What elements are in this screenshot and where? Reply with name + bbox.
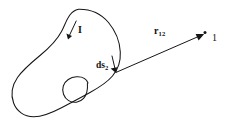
r12-label-subscript: 12 [158, 30, 165, 37]
ds2-label: ds2 [96, 61, 108, 71]
diagram-svg [0, 0, 226, 129]
current-direction-arrow-icon [66, 34, 72, 40]
ds2-element-stem [112, 56, 115, 70]
ds2-label-subscript: 2 [105, 64, 108, 71]
current-label: I [78, 25, 82, 35]
field-point-1-dot [204, 31, 207, 34]
r12-vector-stem [117, 36, 201, 73]
ds2-label-base: ds [96, 60, 105, 70]
figure-canvas: I ds2 r12 1 [0, 0, 226, 129]
field-point-1-label: 1 [212, 33, 217, 43]
inner-curl [63, 77, 88, 103]
current-direction-stem [69, 21, 77, 37]
r12-label: r12 [154, 26, 165, 36]
